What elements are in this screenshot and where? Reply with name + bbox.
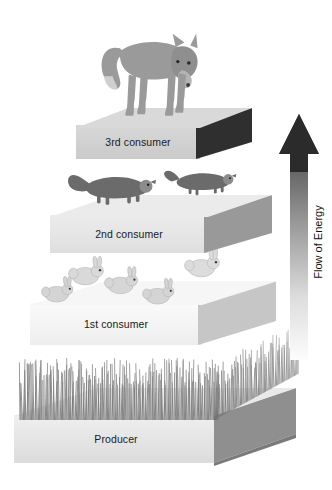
producer-label-holder: Producer: [14, 415, 218, 463]
third-consumer-label: 3rd consumer: [105, 137, 170, 148]
second-consumer-label-holder: 2nd consumer: [50, 215, 208, 253]
first-consumer-label-holder: 1st consumer: [30, 303, 202, 345]
producer-label: Producer: [94, 434, 137, 445]
second-consumer-label: 2nd consumer: [95, 229, 163, 240]
slab-producer: Producer: [14, 415, 218, 463]
rabbit-icon: [142, 278, 178, 306]
fox-icon: [95, 22, 205, 126]
flow-of-energy-label: Flow of Energy: [312, 182, 324, 302]
weasel-icon: [160, 160, 246, 202]
slab-3rd-consumer: 3rd consumer: [76, 125, 200, 159]
slab-1st-consumer: 1st consumer: [30, 303, 202, 345]
first-consumer-label: 1st consumer: [84, 319, 148, 330]
weasel-icon: [61, 163, 169, 211]
rabbit-icon: [104, 266, 142, 296]
energy-pyramid-diagram: Producer 1st consumer: [0, 0, 332, 490]
flow-of-energy-text: Flow of Energy: [312, 205, 324, 278]
third-consumer-label-holder: 3rd consumer: [76, 125, 200, 159]
rabbit-icon: [68, 256, 108, 287]
slab-2nd-consumer: 2nd consumer: [50, 215, 208, 253]
